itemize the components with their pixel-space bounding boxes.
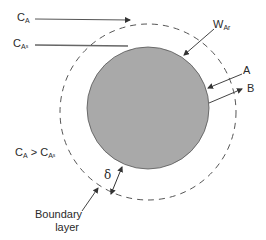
bulk-conc-main: C <box>17 11 25 23</box>
boundary-layer-label: Boundary layer <box>35 208 79 234</box>
cond-left-main: C <box>15 146 23 158</box>
species-a-label: A <box>243 64 250 76</box>
thickness-arrow <box>111 167 122 194</box>
flux-label: WAr <box>213 18 230 31</box>
flux-arrow <box>184 29 214 55</box>
flux-main: W <box>213 18 223 30</box>
bulk-conc-label: CA <box>17 11 30 24</box>
species-b-label: B <box>247 82 254 94</box>
diagram-root: CA CAs WAr A B CA > CAs δ Boundary layer <box>0 0 266 240</box>
bulk-conc-sub: A <box>25 17 30 24</box>
thickness-label: δ <box>104 168 111 182</box>
cond-op: > <box>28 146 41 158</box>
boundary-layer-pointer <box>82 188 98 211</box>
condition-label: CA > CAs <box>15 146 55 159</box>
species-a-arrow <box>208 74 242 88</box>
surface-conc-subsub: s <box>26 43 29 49</box>
surface-conc-main: C <box>13 37 21 49</box>
surface-conc-label: CAs <box>13 37 28 50</box>
boundary-layer-line2: layer <box>35 221 79 234</box>
boundary-layer-line1: Boundary <box>35 208 79 221</box>
particle-circle <box>87 47 209 169</box>
flux-sub: Ar <box>223 24 230 31</box>
diagram-canvas <box>0 0 266 240</box>
surface-conc-line <box>35 45 128 46</box>
bulk-conc-line <box>35 19 130 20</box>
cond-right-main: C <box>40 146 48 158</box>
cond-right-subsub: s <box>53 152 56 158</box>
species-b-arrow <box>209 89 242 103</box>
